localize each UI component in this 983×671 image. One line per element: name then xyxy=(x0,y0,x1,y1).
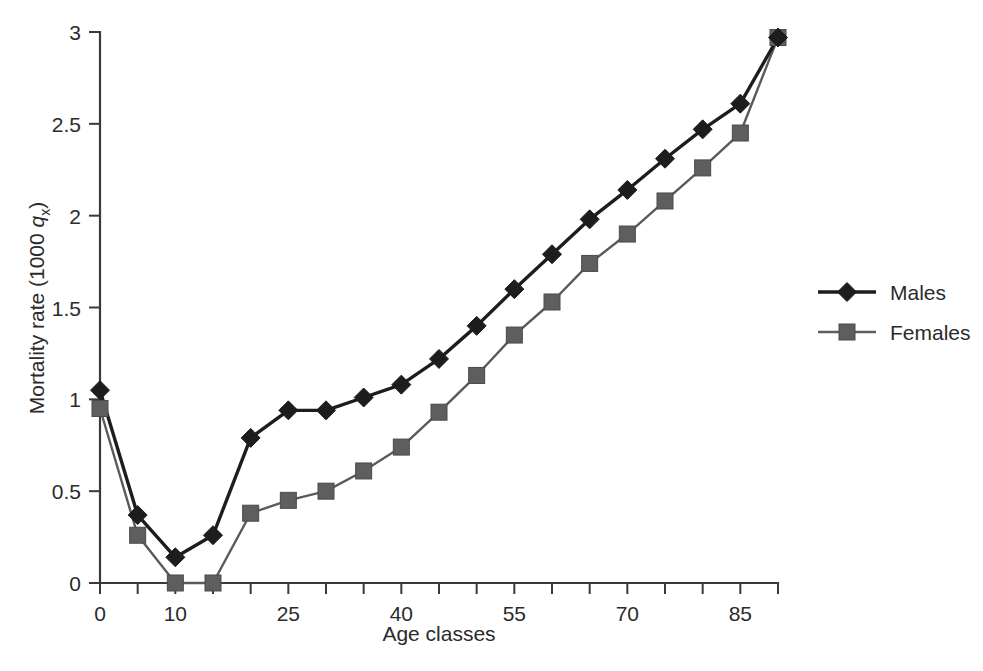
legend-marker-diamond-icon xyxy=(838,283,857,302)
data-point-males-age-0 xyxy=(91,381,110,400)
x-axis-title-label: Age classes xyxy=(382,622,495,645)
y-tick-label-2.5: 2.5 xyxy=(52,113,81,136)
legend-item-males[interactable]: Males xyxy=(818,281,946,304)
y-tick-label-1: 1 xyxy=(69,388,81,411)
legend-label-males: Males xyxy=(890,281,946,304)
legend-item-females[interactable]: Females xyxy=(818,321,971,344)
y-tick-label-0: 0 xyxy=(69,572,81,595)
data-point-females-age-45 xyxy=(431,404,447,420)
data-point-females-age-80 xyxy=(695,160,711,176)
y-axis-title-label: Mortality rate (1000 qx) xyxy=(25,202,53,414)
data-point-females-age-25 xyxy=(280,492,296,508)
y-axis-tick-labels: 00.511.522.53 xyxy=(52,21,81,595)
data-point-females-age-65 xyxy=(582,255,598,271)
x-axis-title: Age classes xyxy=(382,622,495,645)
data-point-males-age-85 xyxy=(731,94,750,113)
series-markers-males xyxy=(91,28,788,567)
data-point-females-age-70 xyxy=(619,226,635,242)
y-tick-label-2: 2 xyxy=(69,205,81,228)
x-axis-ticks xyxy=(100,583,778,594)
x-tick-label-55: 55 xyxy=(503,602,526,625)
data-point-males-age-30 xyxy=(317,401,336,420)
data-point-females-age-5 xyxy=(130,527,146,543)
y-axis-title: Mortality rate (1000 qx) xyxy=(25,202,53,414)
y-axis-title-prefix: Mortality rate (1000 xyxy=(25,227,48,414)
data-point-females-age-10 xyxy=(167,575,183,591)
data-point-females-age-50 xyxy=(469,367,485,383)
y-axis-title-italic-q: q xyxy=(25,215,48,227)
data-point-females-age-20 xyxy=(243,505,259,521)
x-tick-label-25: 25 xyxy=(277,602,300,625)
y-axis-title-subscript-x: x xyxy=(37,209,53,216)
data-point-females-age-0 xyxy=(92,401,108,417)
y-tick-label-3: 3 xyxy=(69,21,81,44)
data-point-females-age-30 xyxy=(318,483,334,499)
chart-axes xyxy=(100,32,778,583)
series-markers-females xyxy=(92,30,786,591)
data-point-females-age-35 xyxy=(356,463,372,479)
chart-series-group xyxy=(91,28,788,591)
series-line-males xyxy=(100,38,778,558)
data-point-females-age-75 xyxy=(657,193,673,209)
y-axis-ticks xyxy=(89,32,100,583)
data-point-females-age-60 xyxy=(544,294,560,310)
x-tick-label-85: 85 xyxy=(729,602,752,625)
legend-marker-square-icon xyxy=(839,324,855,340)
chart-page: 00.511.522.53 0102540557085 Age classes … xyxy=(0,0,983,671)
data-point-males-age-15 xyxy=(204,526,223,545)
data-point-males-age-35 xyxy=(354,388,373,407)
data-point-females-age-85 xyxy=(732,125,748,141)
x-tick-label-10: 10 xyxy=(164,602,187,625)
chart-legend: MalesFemales xyxy=(818,281,971,344)
x-tick-label-0: 0 xyxy=(94,602,106,625)
data-point-males-age-40 xyxy=(392,375,411,394)
y-axis-title-suffix: ) xyxy=(25,202,48,209)
y-tick-label-0.5: 0.5 xyxy=(52,480,81,503)
y-tick-label-1.5: 1.5 xyxy=(52,297,81,320)
data-point-females-age-55 xyxy=(506,327,522,343)
legend-label-females: Females xyxy=(890,321,971,344)
data-point-females-age-15 xyxy=(205,575,221,591)
mortality-rate-line-chart: 00.511.522.53 0102540557085 Age classes … xyxy=(0,0,983,671)
series-line-females xyxy=(100,38,778,583)
x-tick-label-70: 70 xyxy=(616,602,639,625)
data-point-females-age-40 xyxy=(393,439,409,455)
